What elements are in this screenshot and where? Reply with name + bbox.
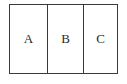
cell-b: B xyxy=(47,5,83,73)
diagram-canvas: A B C xyxy=(0,0,127,84)
partitioned-rectangle: A B C xyxy=(9,4,118,74)
cell-a: A xyxy=(10,5,47,73)
cell-c: C xyxy=(83,5,117,73)
cell-c-label: C xyxy=(96,32,105,45)
cell-a-label: A xyxy=(24,32,33,45)
cell-b-label: B xyxy=(61,32,70,45)
